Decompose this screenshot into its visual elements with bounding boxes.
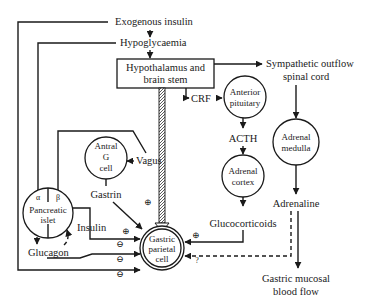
- parietal-cell-label-line1: Gastric: [149, 234, 175, 244]
- adrenal-cortex-label-line1: Adrenal: [229, 166, 258, 176]
- anterior-pituitary-circle: [224, 76, 266, 118]
- beta-cell-label: β: [56, 193, 60, 202]
- glucocorticoids-label: Glucocorticoids: [209, 218, 276, 229]
- parietal-cell-label-line2: parietal: [149, 244, 176, 254]
- pancreatic-islet-label-line2: islet: [41, 215, 56, 225]
- antral-g-cell-label-line3: cell: [100, 163, 113, 173]
- gastrin-to-parietal-arrow: [113, 202, 142, 229]
- exogenous-insulin-label: Exogenous insulin: [115, 16, 194, 27]
- hypothalamus-label-line2: brain stem: [143, 74, 187, 85]
- diagram-canvas: Exogenous insulin Hypoglycaemia Hypothal…: [0, 0, 366, 307]
- blood-flow-label-line2: blood flow: [273, 286, 319, 297]
- gastrin-label: Gastrin: [91, 189, 123, 200]
- adrenal-cortex-circle: [222, 155, 264, 197]
- antral-g-cell-label-line1: Antral: [95, 141, 118, 151]
- hypoglycaemia-label: Hypoglycaemia: [120, 37, 187, 48]
- adrenaline-unknown-sign: ?: [195, 256, 199, 265]
- adrenal-medulla-label-line2: medulla: [282, 143, 311, 153]
- hypothalamus-to-crf-arrow: [186, 88, 189, 98]
- parietal-cell-label-line3: cell: [156, 254, 169, 264]
- exogenous-insulin-minus-sign: ⊖: [116, 269, 124, 279]
- insulin-minus-sign: ⊖: [116, 239, 124, 249]
- gastrin-plus-sign: ⊕: [122, 226, 130, 236]
- adrenaline-label: Adrenaline: [273, 198, 320, 209]
- sympathetic-label-line1: Sympathetic outflow: [266, 58, 354, 69]
- adrenal-medulla-circle: [273, 119, 319, 165]
- blood-flow-label-line1: Gastric mucosal: [262, 273, 330, 284]
- acth-label: ACTH: [229, 133, 258, 144]
- anterior-pituitary-label-line2: pituitary: [230, 98, 261, 108]
- pancreatic-islet-label-line1: Pancreatic: [29, 205, 66, 215]
- glucocorticoids-plus-sign: ⊕: [192, 230, 200, 240]
- anterior-pituitary-label-line1: Anterior: [230, 87, 261, 97]
- vagus-plus-sign: ⊕: [144, 197, 152, 207]
- vagus-label: Vagus: [136, 155, 162, 166]
- gastric-acid-regulation-diagram: Exogenous insulin Hypoglycaemia Hypothal…: [0, 0, 366, 307]
- glucagon-label: Glucagon: [28, 247, 70, 258]
- antral-g-cell-label-line2: G: [103, 152, 110, 162]
- sympathetic-label-line2: spinal cord: [283, 71, 330, 82]
- glucagon-minus-sign: ⊖: [116, 254, 124, 264]
- hypothalamus-label-line1: Hypothalamus and: [126, 62, 206, 73]
- adrenal-medulla-label-line1: Adrenal: [282, 132, 311, 142]
- insulin-label: Insulin: [77, 222, 107, 233]
- adrenal-cortex-label-line2: cortex: [232, 177, 255, 187]
- crf-label: CRF: [191, 93, 211, 104]
